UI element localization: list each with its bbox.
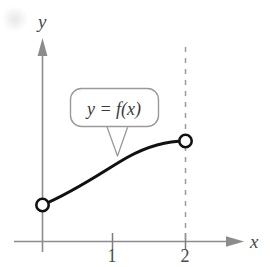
y-axis-label: y xyxy=(38,12,46,31)
function-callout-label: y = f(x) xyxy=(74,96,154,122)
x-tick-label-2: 2 xyxy=(175,247,195,265)
graph-canvas xyxy=(0,0,270,267)
y-axis xyxy=(38,38,48,252)
x-tick-label-1: 1 xyxy=(102,247,122,265)
endpoint-open-circle-right xyxy=(179,135,191,147)
function-curve xyxy=(43,141,186,205)
callout-tail xyxy=(106,124,128,156)
x-axis-label: x xyxy=(250,232,258,251)
x-axis xyxy=(14,236,244,246)
endpoint-open-circle-left xyxy=(36,199,48,211)
function-graph-figure: y x 1 2 y = f(x) xyxy=(0,0,270,267)
